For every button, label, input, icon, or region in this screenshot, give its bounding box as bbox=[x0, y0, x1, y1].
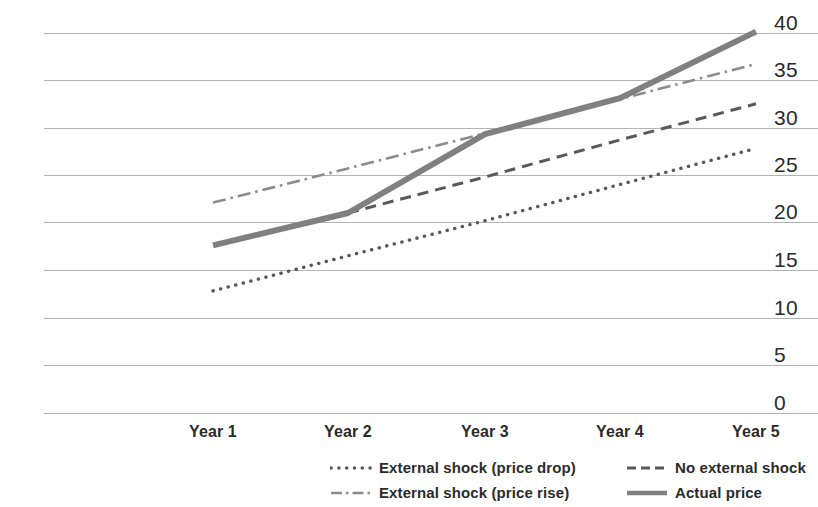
legend-item-external-shock-price-drop: External shock (price drop) bbox=[330, 459, 626, 476]
y-tick-label: 40 bbox=[774, 12, 818, 33]
legend-swatch-dash-dot-icon bbox=[330, 487, 372, 499]
x-tick-label-year-4: Year 4 bbox=[570, 424, 670, 440]
y-tick-label: 20 bbox=[774, 201, 818, 222]
x-tick-label-year-2: Year 2 bbox=[298, 424, 398, 440]
legend-label: Actual price bbox=[675, 484, 762, 501]
y-tick-label: 0 bbox=[774, 392, 818, 413]
series-no-external-shock bbox=[348, 104, 756, 213]
y-tick-label: 30 bbox=[774, 107, 818, 128]
x-tick-label-year-1: Year 1 bbox=[163, 424, 263, 440]
legend-item-actual-price: Actual price bbox=[626, 484, 762, 501]
legend-row: External shock (price rise) Actual price bbox=[330, 480, 810, 505]
legend-item-no-external-shock: No external shock bbox=[626, 459, 806, 476]
gridlines bbox=[44, 34, 818, 414]
chart-legend: External shock (price drop) No external … bbox=[330, 455, 810, 505]
legend-item-external-shock-price-rise: External shock (price rise) bbox=[330, 484, 626, 501]
y-tick-label: 25 bbox=[774, 154, 818, 175]
legend-swatch-solid-icon bbox=[626, 487, 668, 499]
legend-swatch-dashed-icon bbox=[626, 462, 668, 474]
y-tick-label: 5 bbox=[774, 344, 818, 365]
chart-plot-area bbox=[0, 0, 818, 507]
x-tick-label-year-3: Year 3 bbox=[435, 424, 535, 440]
y-tick-label: 15 bbox=[774, 249, 818, 270]
legend-label: External shock (price drop) bbox=[379, 459, 576, 476]
legend-row: External shock (price drop) No external … bbox=[330, 455, 810, 480]
y-tick-label: 10 bbox=[774, 297, 818, 318]
legend-label: External shock (price rise) bbox=[379, 484, 569, 501]
legend-swatch-dotted-icon bbox=[330, 462, 372, 474]
series-external-shock-price-drop bbox=[213, 148, 756, 291]
series-actual-price bbox=[213, 32, 756, 246]
y-tick-label: 35 bbox=[774, 59, 818, 80]
line-chart: 40 35 30 25 20 15 10 5 0 Year 1 Year 2 Y… bbox=[0, 0, 818, 507]
legend-label: No external shock bbox=[675, 459, 806, 476]
x-tick-label-year-5: Year 5 bbox=[706, 424, 806, 440]
